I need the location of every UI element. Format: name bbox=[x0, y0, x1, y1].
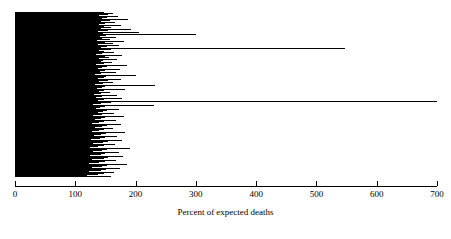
x-tick bbox=[316, 181, 317, 186]
bar bbox=[15, 176, 111, 177]
x-tick bbox=[196, 181, 197, 186]
x-tick-label: 300 bbox=[176, 189, 216, 200]
x-tick-label: 0 bbox=[0, 189, 35, 200]
x-axis-line bbox=[15, 186, 437, 187]
x-tick-label: 600 bbox=[357, 189, 397, 200]
x-tick-label: 400 bbox=[236, 189, 276, 200]
x-tick bbox=[75, 181, 76, 186]
chart-figure: 0100200300400500600700 Percent of expect… bbox=[0, 0, 451, 239]
x-axis-label: Percent of expected deaths bbox=[0, 207, 451, 217]
x-tick-label: 700 bbox=[417, 189, 451, 200]
plot-area bbox=[15, 12, 437, 177]
x-tick bbox=[377, 181, 378, 186]
x-tick-label: 500 bbox=[296, 189, 336, 200]
x-tick-label: 200 bbox=[116, 189, 156, 200]
x-tick bbox=[437, 181, 438, 186]
x-tick-label: 100 bbox=[55, 189, 95, 200]
x-tick bbox=[136, 181, 137, 186]
x-tick bbox=[15, 181, 16, 186]
x-tick bbox=[256, 181, 257, 186]
